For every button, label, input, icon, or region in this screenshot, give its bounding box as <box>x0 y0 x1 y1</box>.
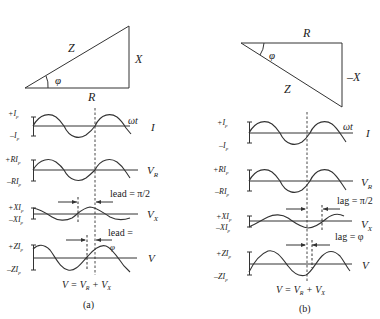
waveform-vx-b: +XIp –XIp lag = π/2 VX <box>215 195 373 233</box>
svg-text:+XIp: +XIp <box>216 212 232 222</box>
waveform-v-b: +ZIp –ZIp lag = φ V <box>213 231 370 282</box>
waveform-current-a: +Ip –Ip ωt I <box>8 109 156 141</box>
label-x: X <box>134 52 143 66</box>
svg-text:–ZIp: –ZIp <box>213 272 228 282</box>
label-phi: φ <box>55 74 61 86</box>
svg-text:+ZIp: +ZIp <box>8 242 24 252</box>
waveform-vr-a: +RIp –RIp VR <box>5 155 159 187</box>
lead-phi-label: lead = <box>108 227 133 238</box>
svg-text:+XIp: +XIp <box>8 203 24 213</box>
svg-text:R: R <box>302 26 311 40</box>
svg-text:ωt: ωt <box>343 121 353 132</box>
triangle-shape <box>25 26 129 88</box>
svg-text:VX: VX <box>147 208 159 223</box>
svg-text:VR: VR <box>147 164 159 179</box>
omega-t-label: ωt <box>128 115 138 126</box>
lag-pi-over-2-label: lag = π/2 <box>337 195 373 206</box>
svg-text:+RIp: +RIp <box>213 165 229 175</box>
label-z: Z <box>68 41 75 55</box>
svg-text:VR: VR <box>361 176 373 191</box>
svg-text:I: I <box>365 127 371 139</box>
panel-a: Z X R φ +Ip –Ip ωt I +RIp –RIp VR +XIp <box>5 26 159 311</box>
impedance-triangle-a: Z X R φ <box>25 26 143 104</box>
lead-phi-symbol: φ <box>110 242 115 252</box>
svg-text:V: V <box>362 259 370 271</box>
waveform-vx-a: +XIp –XIp lead = π/2 VX <box>8 188 159 225</box>
svg-text:+Ip: +Ip <box>217 118 228 128</box>
label-minus: –Ip <box>9 131 20 141</box>
waveform-v-a: +ZIp –ZIp lead = φ V <box>6 227 156 275</box>
angle-arc <box>260 43 264 55</box>
svg-text:–XIp: –XIp <box>8 215 24 225</box>
svg-text:V: V <box>148 252 156 264</box>
row-label: I <box>150 121 156 133</box>
waveform-vr-b: +RIp –RIp VR <box>213 165 373 197</box>
svg-text:+ZIp: +ZIp <box>216 249 232 259</box>
svg-text:–Ip: –Ip <box>218 141 229 151</box>
svg-text:Z: Z <box>284 82 291 96</box>
waveform-current-b: +Ip –Ip ωt I <box>217 118 371 151</box>
svg-text:–RIp: –RIp <box>214 187 230 197</box>
panel-b: R –X Z φ +Ip –Ip ωt I +RIp –RIp VR +XIp <box>213 26 373 315</box>
formula-a: V = VR + VX <box>62 279 111 291</box>
lag-phi-label: lag = φ <box>335 231 364 242</box>
svg-text:–X: –X <box>346 70 361 84</box>
impedance-phasor-diagram: Z X R φ +Ip –Ip ωt I +RIp –RIp VR +XIp <box>0 0 380 319</box>
svg-text:–XIp: –XIp <box>215 223 231 233</box>
lead-pi-over-2-label: lead = π/2 <box>110 188 150 199</box>
angle-arc <box>46 76 48 88</box>
svg-text:–ZIp: –ZIp <box>6 265 21 275</box>
svg-text:φ: φ <box>269 49 275 61</box>
caption-a: (a) <box>83 299 94 311</box>
caption-b: (b) <box>299 303 311 315</box>
label-r: R <box>87 90 96 104</box>
label-plus: +Ip <box>8 109 19 119</box>
svg-text:+RIp: +RIp <box>5 155 21 165</box>
svg-text:–RIp: –RIp <box>6 177 22 187</box>
formula-b: V = VR + VX <box>276 284 325 296</box>
impedance-triangle-b: R –X Z φ <box>241 26 361 107</box>
